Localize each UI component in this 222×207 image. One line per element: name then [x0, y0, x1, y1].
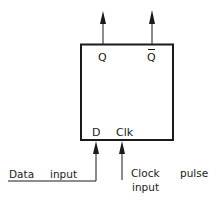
clock-label-word3: input [132, 181, 159, 193]
q-label: Q [98, 51, 107, 64]
clk-label: Clk [116, 126, 134, 139]
data-input-label-word1: Data [9, 168, 34, 180]
d-flip-flop-diagram: Q Q D Clk Data input Clock pulse input [0, 0, 222, 207]
d-label: D [92, 126, 100, 139]
clock-input-line [119, 141, 125, 180]
q-output-arrow [100, 11, 106, 44]
clock-label-word1: Clock [131, 167, 160, 179]
q-bar-label: Q [147, 51, 156, 64]
q-bar-output-arrow [149, 10, 155, 44]
clock-label-word2: pulse [180, 167, 208, 179]
data-input-label-word2: input [50, 168, 77, 180]
